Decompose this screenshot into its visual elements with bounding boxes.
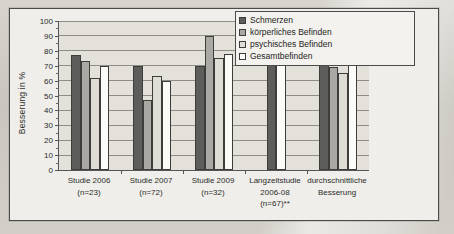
bar (162, 81, 172, 170)
category-separator (121, 170, 122, 174)
bar (205, 36, 215, 170)
legend-item[interactable]: Gesamtbefinden (239, 50, 411, 62)
y-axis-title-text: Besserung in % (17, 72, 27, 134)
bar (214, 58, 224, 170)
y-axis-tick-label: 40 (44, 110, 53, 111)
legend-swatch-icon (239, 17, 246, 24)
bar (329, 67, 339, 170)
bar-group (121, 21, 183, 170)
chart-frame: Besserung in % 0102030405060708090100 St… (9, 8, 439, 221)
chart-legend: Schmerzenkörperliches Befindenpsychische… (235, 11, 415, 66)
category-separator (307, 170, 308, 174)
legend-label: Gesamtbefinden (250, 51, 312, 61)
y-axis-tick-label: 30 (44, 125, 53, 126)
y-axis-tick-label: 0 (49, 170, 53, 171)
legend-item[interactable]: Schmerzen (239, 14, 411, 26)
bar (71, 55, 81, 170)
bar (143, 100, 153, 170)
bar (267, 49, 277, 170)
legend-label: psychisches Befinden (250, 39, 332, 49)
legend-item[interactable]: körperliches Befinden (239, 26, 411, 38)
bar (319, 60, 329, 170)
y-axis-tick (55, 170, 59, 171)
x-axis-label-line: durchschnittliche (307, 176, 367, 185)
x-axis-labels: Studie 2006(n=23)Studie 2007(n=72)Studie… (58, 175, 368, 219)
x-axis-label-line: (n=67)** (236, 198, 314, 210)
bar (348, 64, 358, 170)
y-axis-tick-label: 20 (44, 140, 53, 141)
legend-swatch-icon (239, 41, 246, 48)
bar (152, 76, 162, 170)
x-axis-label-line: Studie 2007 (130, 176, 173, 185)
legend-swatch-icon (239, 29, 246, 36)
y-axis-tick-label: 10 (44, 155, 53, 156)
bar (224, 54, 234, 170)
bar-group (59, 21, 121, 170)
y-axis-tick-label: 70 (44, 66, 53, 67)
category-separator (183, 170, 184, 174)
x-axis-label-line: Studie 2009 (192, 176, 235, 185)
x-axis-label: durchschnittlicheBesserung (298, 175, 376, 198)
bar (90, 78, 100, 170)
bar (100, 66, 110, 170)
x-axis-label-line: Studie 2006 (68, 176, 111, 185)
legend-item[interactable]: psychisches Befinden (239, 38, 411, 50)
bar (133, 66, 143, 170)
x-axis-label-line: Besserung (298, 187, 376, 199)
chart-body: Besserung in % 0102030405060708090100 St… (10, 9, 438, 220)
y-axis-tick-label: 90 (44, 36, 53, 37)
y-axis-tick-label: 80 (44, 51, 53, 52)
bar (276, 57, 286, 170)
legend-label: Schmerzen (250, 15, 293, 25)
y-axis-tick-label: 60 (44, 81, 53, 82)
category-separator (245, 170, 246, 174)
y-axis-tick-label: 50 (44, 96, 53, 97)
bar (195, 66, 205, 170)
legend-swatch-icon (239, 53, 246, 60)
bar (338, 73, 348, 170)
y-axis-title: Besserung in % (14, 43, 30, 163)
y-axis-tick-label: 100 (40, 21, 53, 22)
x-axis-label-line: Langzeitstudie (249, 176, 301, 185)
bar (81, 61, 91, 170)
legend-label: körperliches Befinden (250, 27, 332, 37)
